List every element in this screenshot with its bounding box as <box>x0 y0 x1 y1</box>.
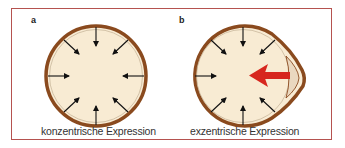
panel-label-a: a <box>31 15 36 25</box>
caption-a: konzentrische Expression <box>41 125 156 137</box>
caption-b: exzentrische Expression <box>190 125 299 137</box>
concentric-diagram <box>46 26 146 126</box>
panel-label-b: b <box>179 15 185 25</box>
eccentric-diagram <box>195 26 304 126</box>
